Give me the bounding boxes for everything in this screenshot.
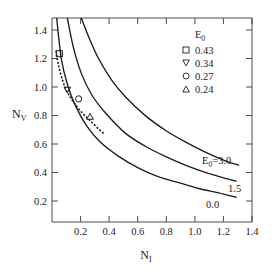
plot-frame (52, 18, 252, 222)
legend-item-1: 0.34 (183, 58, 214, 69)
legend-item-2: 0.27 (183, 71, 213, 82)
legend-item-label: 0.24 (195, 84, 214, 95)
x-axis-ticks (81, 18, 252, 222)
curve-experimental-fit (56, 52, 105, 135)
x-axis-title: NI (140, 248, 152, 264)
legend-item-label: 0.34 (195, 58, 214, 69)
curve-label-e0-eq: =3.0 (212, 155, 231, 166)
axis-frame-top-right (52, 18, 252, 222)
x-tick-label: 0.6 (131, 226, 144, 237)
y-tick-label: 1.4 (34, 25, 48, 36)
x-tick-label: 0.4 (103, 226, 117, 237)
legend-circle-icon (183, 73, 189, 79)
y-tick-label: 0.6 (34, 139, 47, 150)
y-tick-label: 0.4 (34, 167, 48, 178)
y-axis-title: NV (12, 107, 27, 123)
y-axis-ticks (52, 30, 252, 201)
x-axis-title-sub: I (149, 255, 152, 264)
curve-label-0-0: 0.0 (206, 199, 219, 210)
legend-square-icon (183, 47, 189, 53)
x-tick-label: 1.0 (188, 226, 201, 237)
x-axis-title-base: N (140, 248, 149, 262)
y-tick-label: 1.0 (34, 82, 47, 93)
marker-triangle-up-point (87, 113, 94, 119)
curve-e-0-3-0 (81, 18, 238, 165)
y-tick-label: 0.2 (34, 196, 47, 207)
legend-item-label: 0.43 (195, 45, 213, 56)
y-tick-label: 0.8 (34, 110, 47, 121)
legend-triangle-down-icon (183, 60, 190, 66)
curve-labels: E0=3.0 1.5 0.0 (202, 155, 241, 210)
x-tick-label: 0.8 (160, 226, 173, 237)
x-tick-label: 0.2 (74, 226, 87, 237)
svg-text:NI: NI (140, 248, 152, 264)
svg-text:NV: NV (12, 107, 27, 123)
marker-circle-point (76, 96, 82, 102)
chart-svg: 0.2 0.4 0.6 0.8 1.0 1.2 1.4 0.2 0.4 0.6 … (0, 0, 274, 270)
legend-title-sub: 0 (201, 34, 205, 43)
y-tick-label: 1.2 (34, 53, 47, 64)
legend-triangle-up-icon (183, 86, 190, 92)
y-axis-title-sub: V (21, 114, 27, 123)
x-tick-label: 1.2 (217, 226, 230, 237)
y-axis-title-base: N (12, 107, 21, 121)
x-tick-labels: 0.2 0.4 0.6 0.8 1.0 1.2 1.4 (74, 226, 259, 237)
legend-item-label: 0.27 (195, 71, 213, 82)
legend-title: E0 (195, 29, 205, 43)
legend-item-0: 0.43 (183, 45, 213, 56)
axis-lines (52, 18, 252, 222)
figure-container: 0.2 0.4 0.6 0.8 1.0 1.2 1.4 0.2 0.4 0.6 … (0, 0, 274, 270)
y-tick-labels: 0.2 0.4 0.6 0.8 1.0 1.2 1.4 (34, 25, 48, 207)
legend-item-3: 0.24 (183, 84, 214, 95)
legend: E0 0.43 0.34 0.27 0.24 (183, 29, 214, 95)
curve-label-1-5: 1.5 (228, 183, 241, 194)
curve-e-0-1-5 (67, 18, 236, 181)
x-tick-label: 1.4 (245, 226, 259, 237)
curve-label-e0-3: E0=3.0 (202, 155, 231, 169)
